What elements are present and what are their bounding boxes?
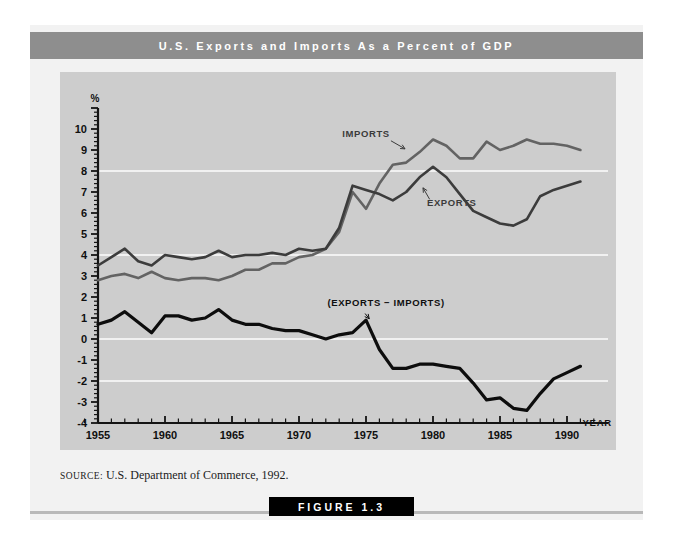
- source-label: SOURCE:: [60, 471, 103, 481]
- series-line-imports: [98, 140, 580, 281]
- annotation-label: EXPORTS: [427, 197, 477, 208]
- x-axis-label: 1965: [220, 429, 244, 441]
- annotation-label: IMPORTS: [342, 128, 389, 139]
- source-text: U.S. Department of Commerce, 1992.: [106, 468, 289, 482]
- source-note: SOURCE: U.S. Department of Commerce, 199…: [60, 468, 289, 483]
- y-axis-label: 1: [81, 312, 87, 324]
- figure-page: U.S. Exports and Imports As a Percent of…: [0, 0, 673, 543]
- chart-plot-area: -4-3-2-1012345678910%1955196019651970197…: [60, 72, 616, 450]
- x-axis-label: 1970: [287, 429, 311, 441]
- figure-caption-badge: FIGURE 1.3: [269, 497, 414, 516]
- figure-title-bar: U.S. Exports and Imports As a Percent of…: [30, 32, 643, 59]
- x-axis-label: 1955: [86, 429, 110, 441]
- figure-caption: FIGURE 1.3: [298, 501, 385, 513]
- x-axis-title: YEAR: [582, 417, 612, 428]
- y-axis-label: 6: [81, 207, 87, 219]
- x-axis-label: 1990: [555, 429, 579, 441]
- x-axis-label: 1960: [153, 429, 177, 441]
- series-line-exports: [98, 167, 580, 266]
- y-axis-label: -3: [77, 396, 87, 408]
- line-chart: -4-3-2-1012345678910%1955196019651970197…: [60, 72, 616, 450]
- y-axis-label: 10: [75, 123, 87, 135]
- y-axis-label: -4: [77, 417, 88, 429]
- y-axis-label: 0: [81, 333, 87, 345]
- y-axis-label: 5: [81, 228, 87, 240]
- y-axis-label: 7: [81, 186, 87, 198]
- y-axis-label: 2: [81, 291, 87, 303]
- y-axis-unit-label: %: [91, 93, 100, 104]
- y-axis-label: 4: [81, 249, 88, 261]
- series-line-exports-imports: [98, 310, 580, 411]
- annotation-label: (EXPORTS − IMPORTS): [327, 297, 444, 308]
- annotation-leader: [391, 141, 405, 149]
- x-axis-label: 1975: [354, 429, 378, 441]
- y-axis-label: -2: [77, 375, 87, 387]
- x-axis-label: 1985: [488, 429, 512, 441]
- y-axis-label: 3: [81, 270, 87, 282]
- y-axis-label: -1: [77, 354, 87, 366]
- y-axis-label: 8: [81, 165, 87, 177]
- figure-title: U.S. Exports and Imports As a Percent of…: [159, 40, 514, 52]
- y-axis-label: 9: [81, 144, 87, 156]
- x-axis-label: 1980: [421, 429, 445, 441]
